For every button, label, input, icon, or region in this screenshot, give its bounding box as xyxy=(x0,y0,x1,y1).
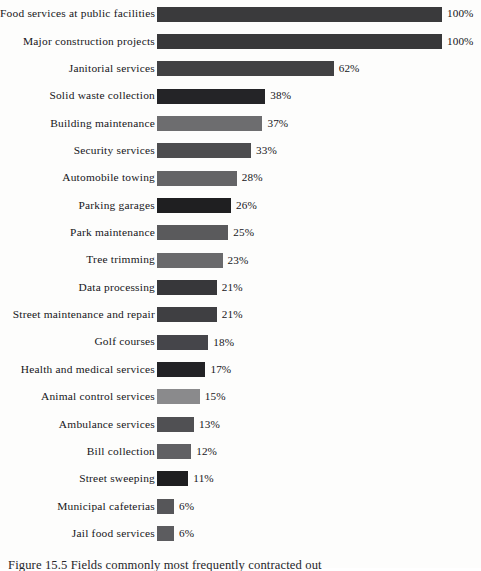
bar-row: Tree trimming23% xyxy=(0,249,481,271)
bar-value-label: 11% xyxy=(193,473,213,484)
bar xyxy=(157,499,174,514)
bar-category-label: Parking garages xyxy=(0,200,157,211)
bar-row: Park maintenance25% xyxy=(0,222,481,244)
bar-category-label: Municipal cafeterias xyxy=(0,501,157,512)
bar xyxy=(157,526,174,541)
bar-and-value: 28% xyxy=(157,167,263,189)
bar-category-label: Bill collection xyxy=(0,446,157,457)
bar xyxy=(157,417,194,432)
bar-category-label: Golf courses xyxy=(0,336,157,347)
bar-row: Animal control services15% xyxy=(0,386,481,408)
bar-value-label: 28% xyxy=(242,172,263,183)
bar-and-value: 100% xyxy=(157,30,474,52)
bar-row: Jail food services6% xyxy=(0,523,481,545)
bar-category-label: Street sweeping xyxy=(0,473,157,484)
bar-category-label: Major construction projects xyxy=(0,36,157,47)
bar xyxy=(157,253,223,268)
bar-row: Solid waste collection38% xyxy=(0,85,481,107)
bar-category-label: Park maintenance xyxy=(0,227,157,238)
bar xyxy=(157,61,334,76)
bar-category-label: Jail food services xyxy=(0,528,157,539)
bar-and-value: 38% xyxy=(157,85,291,107)
bar-and-value: 21% xyxy=(157,304,243,326)
bar-row: Health and medical services17% xyxy=(0,359,481,381)
bar-category-label: Solid waste collection xyxy=(0,90,157,101)
bar-row: Automobile towing28% xyxy=(0,167,481,189)
bar-category-label: Street maintenance and repair xyxy=(0,309,157,320)
bar-row: Janitorial services62% xyxy=(0,58,481,80)
bar xyxy=(157,34,442,49)
bar-value-label: 25% xyxy=(233,227,254,238)
bar xyxy=(157,307,217,322)
bar-category-label: Tree trimming xyxy=(0,254,157,265)
bar-row: Parking garages26% xyxy=(0,194,481,216)
bar xyxy=(157,198,231,213)
bar-row: Street sweeping11% xyxy=(0,468,481,490)
bar-value-label: 15% xyxy=(205,391,226,402)
bar-value-label: 13% xyxy=(199,419,220,430)
bar-and-value: 21% xyxy=(157,277,243,299)
bar-value-label: 17% xyxy=(210,364,231,375)
bar-row: Data processing21% xyxy=(0,277,481,299)
bar-value-label: 18% xyxy=(213,337,234,348)
bar xyxy=(157,335,208,350)
bar-and-value: 17% xyxy=(157,359,231,381)
bar-and-value: 25% xyxy=(157,222,254,244)
bar-row: Municipal cafeterias6% xyxy=(0,495,481,517)
bar-value-label: 62% xyxy=(339,63,360,74)
bar-and-value: 62% xyxy=(157,58,360,80)
bar-and-value: 18% xyxy=(157,331,234,353)
bar-and-value: 6% xyxy=(157,495,194,517)
bar xyxy=(157,7,442,22)
bar-value-label: 21% xyxy=(222,309,243,320)
bar-value-label: 33% xyxy=(256,145,277,156)
bar xyxy=(157,444,191,459)
bar-row: Major construction projects100% xyxy=(0,30,481,52)
bar-and-value: 100% xyxy=(157,3,474,25)
bar xyxy=(157,89,265,104)
bar-value-label: 6% xyxy=(179,501,194,512)
bar-category-label: Automobile towing xyxy=(0,172,157,183)
bar-and-value: 33% xyxy=(157,140,277,162)
bar-row: Bill collection12% xyxy=(0,441,481,463)
bar-category-label: Data processing xyxy=(0,282,157,293)
bar-and-value: 15% xyxy=(157,386,226,408)
bar-category-label: Health and medical services xyxy=(0,364,157,375)
bar-value-label: 100% xyxy=(447,36,474,47)
bar-row: Street maintenance and repair21% xyxy=(0,304,481,326)
bar-value-label: 6% xyxy=(179,528,194,539)
bar-and-value: 13% xyxy=(157,413,220,435)
figure-caption: Figure 15.5 Fields commonly most frequen… xyxy=(8,558,322,571)
bar-value-label: 12% xyxy=(196,446,217,457)
bar-and-value: 37% xyxy=(157,112,288,134)
bar-value-label: 100% xyxy=(447,8,474,19)
bar-value-label: 37% xyxy=(267,118,288,129)
bar xyxy=(157,280,217,295)
bar xyxy=(157,362,205,377)
bar-and-value: 23% xyxy=(157,249,248,271)
bar-row: Security services33% xyxy=(0,140,481,162)
bar-value-label: 26% xyxy=(236,200,257,211)
bar-chart-plot: Food services at public facilities100%Ma… xyxy=(0,0,481,556)
bar-and-value: 12% xyxy=(157,441,217,463)
bar-row: Ambulance services13% xyxy=(0,413,481,435)
bar-and-value: 6% xyxy=(157,523,194,545)
bar-category-label: Security services xyxy=(0,145,157,156)
bar-category-label: Ambulance services xyxy=(0,419,157,430)
bar xyxy=(157,116,262,131)
bar xyxy=(157,389,200,404)
bar-value-label: 38% xyxy=(270,90,291,101)
bar-value-label: 21% xyxy=(222,282,243,293)
bar-and-value: 26% xyxy=(157,194,257,216)
bar-row: Building maintenance37% xyxy=(0,112,481,134)
bar xyxy=(157,471,188,486)
bar-category-label: Food services at public facilities xyxy=(0,8,157,19)
bar-row: Food services at public facilities100% xyxy=(0,3,481,25)
bar-row: Golf courses18% xyxy=(0,331,481,353)
bar-and-value: 11% xyxy=(157,468,214,490)
bar-value-label: 23% xyxy=(228,255,249,266)
bar-category-label: Animal control services xyxy=(0,391,157,402)
bar-category-label: Janitorial services xyxy=(0,63,157,74)
bar xyxy=(157,143,251,158)
